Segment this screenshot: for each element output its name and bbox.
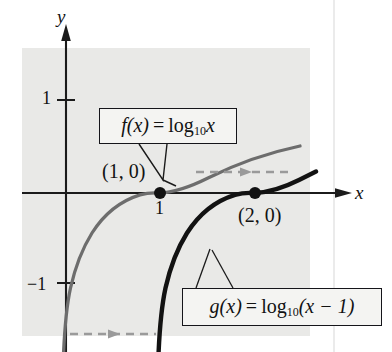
point-1-0-label: (1, 0): [102, 160, 145, 183]
equation-g: g(x) = log10(x − 1): [210, 296, 355, 318]
equation-g-argument: (x − 1): [299, 295, 355, 317]
callout-box-g: g(x) = log10(x − 1): [182, 288, 382, 326]
callout-box-f: f(x) = log10x: [99, 108, 237, 144]
point-2-0-label: (2, 0): [238, 204, 281, 227]
equation-f-base: 10: [194, 124, 206, 138]
equation-f-equals: =: [153, 114, 164, 136]
x-axis-label: x: [355, 182, 363, 204]
y-axis-label: y: [57, 6, 65, 28]
y-tick-label-negative-1: −1: [27, 274, 46, 295]
equation-f-function: f(x): [121, 114, 149, 136]
x-tick-label-1: 1: [155, 198, 164, 219]
y-tick-label-1: 1: [42, 88, 51, 109]
equation-g-equals: =: [246, 295, 257, 317]
equation-g-log: log: [261, 295, 287, 317]
equation-f-argument: x: [206, 114, 215, 136]
equation-f: f(x) = log10x: [121, 115, 215, 137]
equation-g-base: 10: [287, 305, 299, 319]
point-2-0-marker: [249, 187, 261, 199]
equation-f-log: log: [168, 114, 194, 136]
x-axis-arrowhead: [335, 188, 352, 198]
equation-g-function: g(x): [210, 295, 242, 317]
